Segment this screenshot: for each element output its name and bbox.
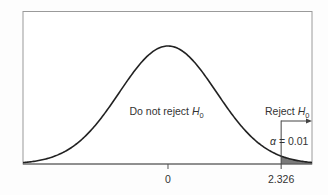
alpha-value: = 0.01	[276, 135, 309, 147]
do-not-reject-text: Do not reject	[130, 105, 192, 117]
chart-canvas: 0 2.326 Do not reject H0 Reject H0 α = 0…	[0, 0, 328, 195]
h-subscript: 0	[305, 111, 309, 120]
normal-distribution-chart: 0 2.326 Do not reject H0 Reject H0 α = 0…	[0, 0, 328, 195]
tick-label-critical-value: 2.326	[268, 173, 294, 185]
alpha-label: α = 0.01	[270, 135, 309, 147]
plot-frame	[23, 12, 312, 165]
h-subscript: 0	[200, 111, 204, 120]
tick-label-zero: 0	[165, 173, 171, 185]
reject-text: Reject	[265, 105, 298, 117]
